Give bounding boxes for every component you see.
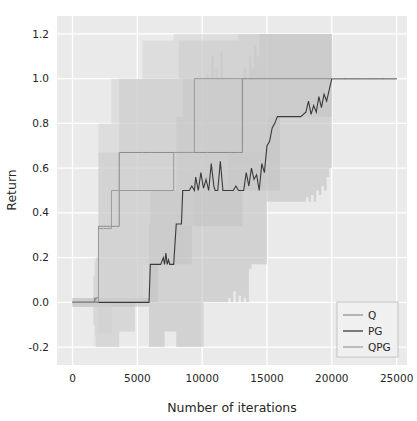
x-tick-label: 10000 — [185, 372, 218, 384]
y-tick-label: 0.4 — [32, 206, 49, 218]
legend-label-pg[interactable]: PG — [368, 325, 382, 337]
y-tick-label: 0.0 — [32, 296, 49, 308]
y-tick-label: 0.2 — [32, 251, 49, 263]
legend-label-q[interactable]: Q — [368, 309, 376, 321]
y-tick-label: 0.6 — [32, 162, 49, 174]
x-tick-label: 15000 — [250, 372, 283, 384]
y-tick-label: 0.8 — [32, 117, 49, 129]
y-axis-ticks-group: -0.20.00.20.40.60.81.01.2 — [29, 28, 50, 353]
x-tick-label: 20000 — [315, 372, 348, 384]
y-tick-label: -0.2 — [29, 341, 50, 353]
y-axis-label: Return — [4, 169, 19, 210]
x-tick-label: 5000 — [124, 372, 151, 384]
x-tick-label: 0 — [69, 372, 76, 384]
figure-canvas: 0500010000150002000025000 -0.20.00.20.40… — [0, 0, 417, 421]
legend-label-qpg[interactable]: QPG — [368, 341, 391, 353]
x-tick-label: 25000 — [380, 372, 413, 384]
chart-legend[interactable]: QPGQPG — [337, 302, 398, 357]
y-tick-label: 1.0 — [32, 72, 49, 84]
x-axis-ticks-group: 0500010000150002000025000 — [69, 372, 413, 384]
x-axis-label: Number of iterations — [167, 400, 297, 415]
chart-svg: 0500010000150002000025000 -0.20.00.20.40… — [0, 0, 417, 421]
y-tick-label: 1.2 — [32, 28, 49, 40]
